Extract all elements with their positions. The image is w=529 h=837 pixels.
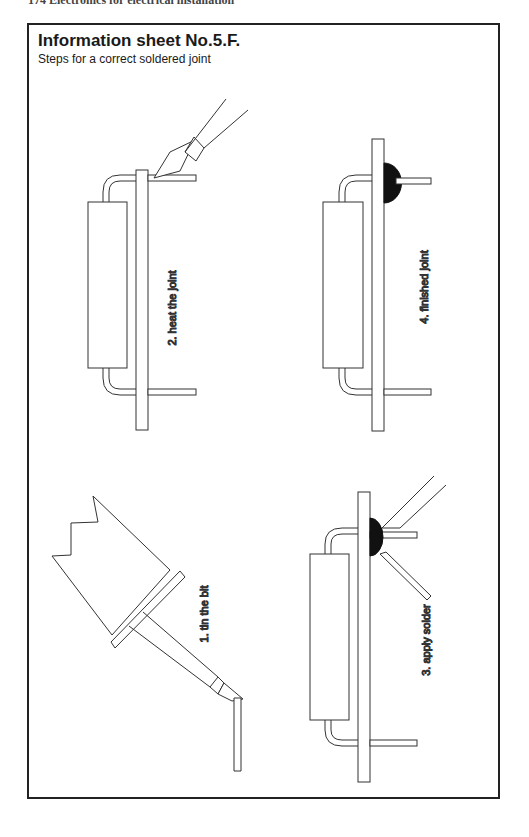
solder-blob [370,518,383,556]
step-2-label: 2. heat the joint [166,270,178,345]
soldering-steps-diagram: 2. heat the joint 4. finished joint [0,0,529,837]
step-1-label: 1. tin the bit [198,586,210,643]
step-3-label: 3. apply solder [420,604,432,676]
step-2-heat-the-joint-drawing [88,99,248,430]
step-4-finished-joint-drawing [323,139,431,431]
step-4-label: 4. finished joint [418,250,430,323]
step-1-tin-the-bit-drawing [52,496,243,771]
